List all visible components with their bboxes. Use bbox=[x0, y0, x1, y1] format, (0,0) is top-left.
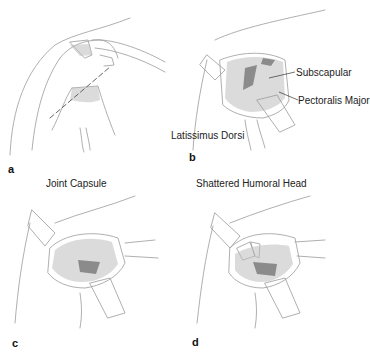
panel-letter-d: d bbox=[192, 336, 199, 348]
panel-b: Subscapular Pectoralis Major Latissimus … bbox=[185, 0, 370, 178]
shattered-humeral-head-illustration bbox=[185, 178, 370, 356]
panel-letter-c: c bbox=[12, 337, 18, 349]
joint-capsule-illustration bbox=[0, 178, 185, 356]
panel-d: Shattered Humoral Head d bbox=[185, 178, 370, 356]
shoulder-incision-illustration bbox=[0, 0, 185, 178]
panel-letter-b: b bbox=[189, 151, 196, 163]
label-latissimus-dorsi: Latissimus Dorsi bbox=[171, 130, 244, 141]
panel-a: a bbox=[0, 0, 185, 178]
label-shattered-humoral-head: Shattered Humoral Head bbox=[196, 178, 307, 189]
panel-letter-a: a bbox=[8, 163, 14, 175]
panel-c: Joint Capsule c bbox=[0, 178, 185, 356]
label-pectoralis-major: Pectoralis Major bbox=[298, 95, 370, 106]
label-joint-capsule: Joint Capsule bbox=[46, 178, 107, 189]
deltopectoral-exposure-illustration bbox=[185, 0, 370, 178]
label-subscapular: Subscapular bbox=[296, 67, 352, 78]
